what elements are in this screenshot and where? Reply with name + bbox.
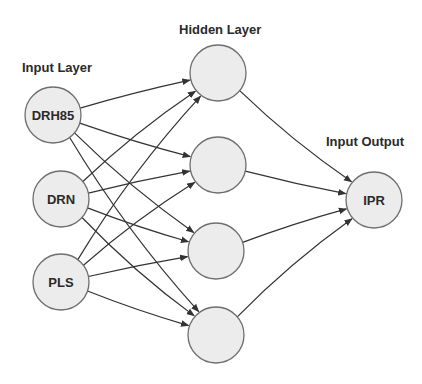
- node-circle: [188, 307, 244, 363]
- edge-in1-h2: [80, 123, 190, 156]
- edge-in3-h3: [88, 257, 187, 277]
- hidden-node-h1: [190, 45, 246, 101]
- edge-in1-h1: [80, 80, 190, 108]
- output-node-out1: IPR: [346, 172, 402, 228]
- hidden-node-h3: [188, 223, 244, 279]
- edge-in3-h1: [78, 96, 201, 259]
- hidden-node-h4: [188, 307, 244, 363]
- neural-network-diagram: DRH85DRNPLSIPR: [0, 0, 422, 384]
- nodes: DRH85DRNPLSIPR: [25, 45, 402, 363]
- input-node-in3: PLS: [33, 254, 89, 310]
- edge-h3-out1: [243, 209, 347, 242]
- edge-in2-h4: [82, 217, 194, 315]
- node-label: IPR: [363, 193, 385, 208]
- edge-in2-h2: [88, 171, 189, 193]
- node-label: PLS: [48, 275, 74, 290]
- edge-h2-out1: [245, 171, 345, 194]
- node-circle: [188, 223, 244, 279]
- node-circle: [190, 45, 246, 101]
- node-label: DRH85: [32, 108, 75, 123]
- edge-in2-h3: [88, 208, 189, 242]
- hidden-node-h2: [190, 137, 246, 193]
- input-node-in1: DRH85: [25, 87, 81, 143]
- edge-h4-out1: [237, 219, 352, 317]
- input-node-in2: DRN: [33, 171, 89, 227]
- edge-h1-out1: [240, 91, 352, 182]
- node-label: DRN: [47, 192, 75, 207]
- connections: [70, 80, 352, 325]
- node-circle: [190, 137, 246, 193]
- edge-in2-h1: [83, 91, 196, 181]
- edge-in3-h4: [87, 291, 188, 326]
